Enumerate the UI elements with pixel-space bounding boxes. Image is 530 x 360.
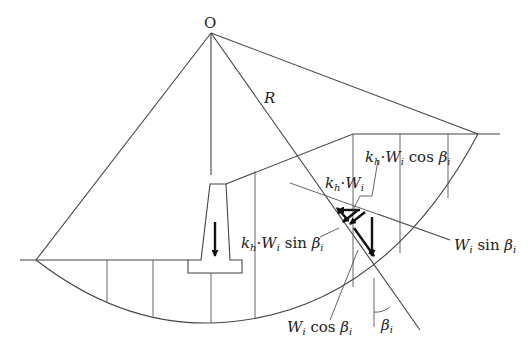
kh-w-sin-label: kh·Wi sin βi	[241, 234, 324, 253]
radius-label: R	[263, 89, 275, 107]
radius-lines	[36, 33, 478, 330]
w-sin-label: Wi sin βi	[454, 236, 516, 255]
kh-w-cos-label: kh·Wi cos βi	[365, 148, 451, 167]
kh-w-label: kh·Wi	[325, 174, 364, 193]
force-vectors	[337, 208, 374, 256]
center-label: O	[204, 14, 216, 32]
beta-angle-label: βi	[380, 316, 393, 335]
radius-to-slice	[211, 33, 420, 330]
slope-stability-diagram: O R kh·Wi cos βi kh·Wi kh·Wi sin βi Wi s…	[0, 0, 530, 360]
w-cos-label: Wi cos βi	[287, 318, 352, 337]
beta-angle-arc	[374, 307, 390, 312]
